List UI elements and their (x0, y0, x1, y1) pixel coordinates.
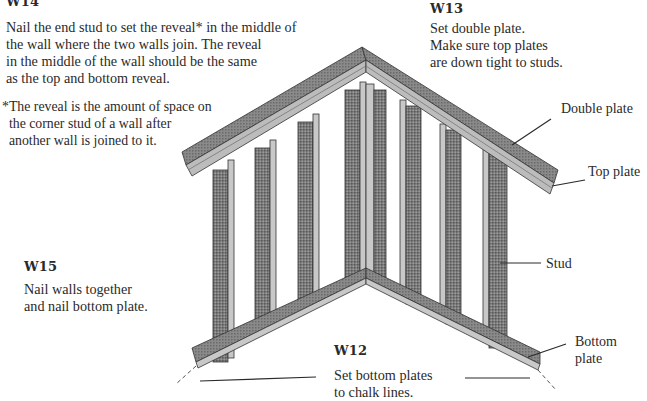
callout-stud: Stud (546, 255, 572, 272)
step-w13-text: Set double plate. Make sure top plates a… (430, 20, 563, 71)
step-w15-label: W15 (24, 259, 57, 274)
callout-top-plate: Top plate (588, 163, 640, 180)
step-w14-label: W14 (6, 0, 39, 9)
step-w12-label: W12 (334, 343, 367, 358)
step-w15-text: Nail walls together and nail bottom plat… (24, 281, 148, 315)
callout-double-plate: Double plate (561, 100, 633, 117)
callout-bottom-plate: Bottom plate (575, 333, 617, 367)
reveal-footnote: *The reveal is the amount of space on th… (2, 98, 212, 149)
step-w12-text: Set bottom plates to chalk lines. (334, 367, 433, 401)
step-w14-text: Nail the end stud to set the reveal* in … (6, 19, 296, 87)
step-w13-label: W13 (430, 1, 463, 16)
